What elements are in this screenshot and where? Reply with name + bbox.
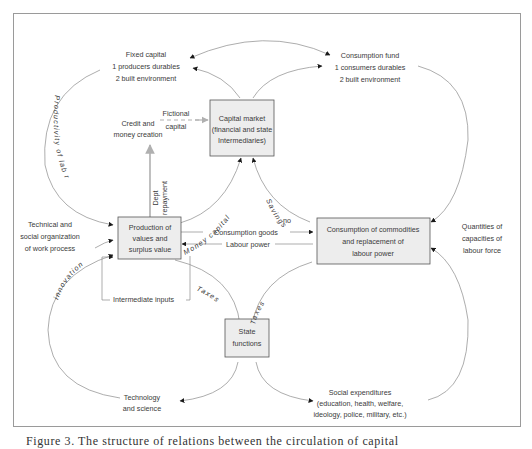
arc-state-technology [180, 362, 238, 401]
label-intermediate-inputs: Intermediate inputs [113, 295, 175, 304]
svg-text:Technical and: Technical and [28, 220, 72, 229]
arc-cf-consumption [418, 66, 468, 222]
svg-text:Fictional: Fictional [163, 109, 190, 118]
loop-intermediate-inputs [186, 256, 190, 300]
box-production: Production of values and surplus value [118, 217, 181, 259]
arc-innovation [48, 255, 120, 398]
svg-text:of work process: of work process [25, 244, 76, 253]
label-ou: ou [283, 217, 291, 226]
svg-text:capacities of: capacities of [462, 234, 502, 243]
node-quantities: Quantities of capacities of labour force [462, 222, 502, 255]
arc-cm-consumption [253, 66, 322, 98]
node-technical: Technical and social organization of wor… [20, 220, 80, 253]
svg-text:1 consumers durables: 1 consumers durables [335, 63, 406, 72]
box-consumption: Consumption of commodities and replaceme… [317, 218, 430, 264]
svg-text:(financial and state: (financial and state [212, 125, 272, 134]
svg-text:Capital market: Capital market [219, 114, 265, 123]
arc-fixed-consumption [190, 41, 330, 58]
arc-savings [253, 158, 310, 222]
svg-text:Consumption of commodities: Consumption of commodities [327, 225, 420, 234]
label-labour-power: Labour power [226, 240, 271, 249]
svg-text:and replacement of: and replacement of [342, 237, 404, 246]
arc-social-consumption [428, 248, 468, 400]
svg-text:and science: and science [123, 404, 161, 413]
figure-caption: Figure 3. The structure of relations bet… [26, 434, 399, 449]
svg-text:capital: capital [166, 122, 187, 131]
svg-text:labour power: labour power [352, 249, 394, 258]
svg-text:Social expenditures: Social expenditures [329, 388, 392, 397]
arc-technical [95, 240, 113, 248]
arc-money-capital [180, 158, 241, 223]
label-dept-repayment: Dept repayment [151, 181, 169, 215]
label-innovation: innovation [51, 259, 85, 301]
label-taxes-left: Taxes [195, 284, 221, 305]
svg-text:surplus value: surplus value [129, 245, 171, 254]
svg-text:Intermediaries): Intermediaries) [218, 136, 266, 145]
svg-text:ideology, police, military, et: ideology, police, military, etc.) [313, 410, 406, 419]
svg-text:Dept: Dept [151, 190, 160, 205]
svg-text:State: State [239, 327, 256, 336]
svg-text:Technology: Technology [124, 393, 161, 402]
svg-text:Consumption fund: Consumption fund [341, 51, 399, 60]
label-consumption-goods: Consumption goods [214, 228, 278, 237]
svg-text:Quantities of: Quantities of [462, 222, 502, 231]
svg-text:Fixed capital: Fixed capital [126, 50, 167, 59]
svg-text:money creation: money creation [113, 130, 162, 139]
arc-state-social [256, 362, 313, 401]
svg-text:2 built environment: 2 built environment [116, 74, 177, 83]
svg-text:Credit and: Credit and [121, 119, 154, 128]
svg-text:(education, health, welfare,: (education, health, welfare, [317, 399, 403, 408]
arc-taxes-right [252, 262, 312, 325]
svg-text:Production of: Production of [129, 223, 171, 232]
svg-text:values and: values and [133, 234, 168, 243]
node-credit: Credit and money creation [113, 119, 162, 139]
node-fixed-capital: Fixed capital 1 producers durables 2 bui… [112, 50, 180, 83]
box-capital-market: Capital market (financial and state Inte… [210, 100, 274, 156]
svg-text:labour force: labour force [463, 246, 501, 255]
arc-cm-fixed [193, 68, 240, 98]
svg-text:2 built environment: 2 built environment [340, 75, 401, 84]
node-consumption-fund: Consumption fund 1 consumers durables 2 … [335, 51, 406, 84]
svg-text:social organization: social organization [20, 232, 80, 241]
box-state-functions: State functions [225, 319, 269, 357]
label-productivity: Productivity of lab r [52, 95, 73, 181]
node-social-expenditures: Social expenditures (education, health, … [313, 388, 406, 419]
svg-text:functions: functions [233, 339, 262, 348]
svg-text:repayment: repayment [160, 181, 169, 215]
node-technology: Technology and science [123, 393, 161, 413]
svg-text:1 producers durables: 1 producers durables [112, 62, 180, 71]
